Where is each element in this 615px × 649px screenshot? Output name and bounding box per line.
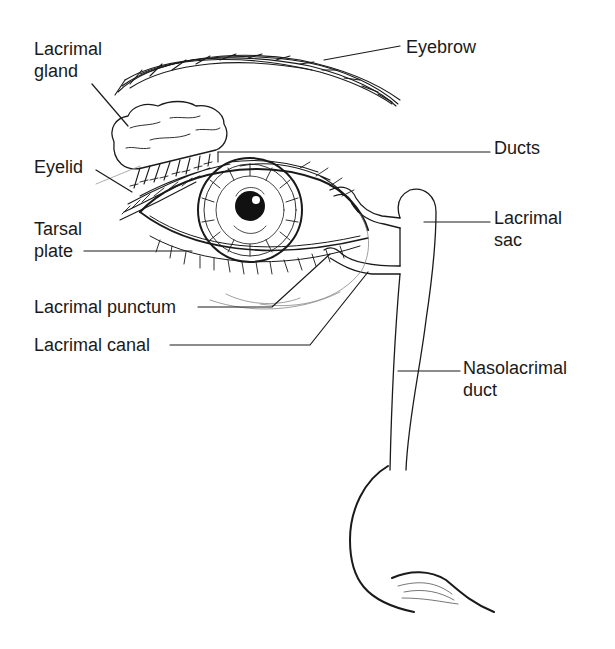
label-lacrimal-punctum: Lacrimal punctum: [34, 296, 176, 318]
nose-drawing: [350, 466, 494, 612]
leader-lacrimal-canal: [170, 272, 368, 345]
label-tarsal-plate: Tarsal plate: [34, 218, 82, 262]
anatomy-illustration: [0, 0, 615, 649]
label-eyebrow: Eyebrow: [406, 36, 476, 58]
eyebrow-drawing: [115, 54, 400, 106]
label-ducts: Ducts: [494, 137, 540, 159]
leader-lacrimal-gland: [92, 84, 128, 126]
label-lacrimal-canal: Lacrimal canal: [34, 334, 150, 356]
label-lacrimal-gland: Lacrimal gland: [34, 38, 102, 82]
lacrimal-sac-and-duct-drawing: [390, 189, 436, 470]
leader-eyelid: [96, 170, 132, 192]
lacrimal-apparatus-diagram: Lacrimal gland Eyebrow Ducts Eyelid Lacr…: [0, 0, 615, 649]
leader-eyebrow: [324, 46, 400, 60]
label-lacrimal-sac: Lacrimal sac: [494, 207, 562, 251]
iris-drawing: [198, 158, 302, 262]
label-eyelid: Eyelid: [34, 156, 83, 178]
eye-drawing: [96, 160, 368, 309]
label-nasolacrimal-duct: Nasolacrimal duct: [463, 357, 567, 401]
